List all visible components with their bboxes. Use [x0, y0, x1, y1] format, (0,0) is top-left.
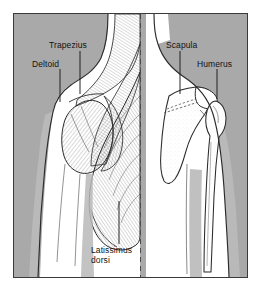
label-latissimus-line2: dorsi: [91, 255, 110, 265]
label-latissimus-dorsi: Latissimus dorsi: [91, 245, 132, 265]
arm-inner-shadow-right: [189, 169, 202, 277]
label-scapula: Scapula: [166, 40, 197, 50]
label-trapezius: Trapezius: [49, 40, 87, 50]
label-humerus: Humerus: [197, 59, 232, 69]
figure-frame: Trapezius Deltoid Scapula Humerus Latiss…: [13, 13, 248, 278]
label-latissimus-line1: Latissimus: [91, 245, 132, 255]
illustration-page: Trapezius Deltoid Scapula Humerus Latiss…: [0, 0, 261, 293]
label-deltoid: Deltoid: [32, 59, 59, 69]
anatomy-drawing: [14, 14, 247, 277]
